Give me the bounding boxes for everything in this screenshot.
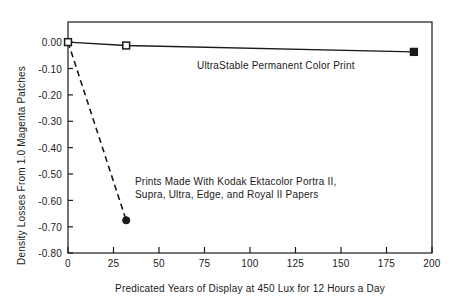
y-tick-label-3: -0.30 xyxy=(24,116,62,127)
y-tick-label-4: -0.40 xyxy=(24,142,62,153)
x-tick-label-5: 125 xyxy=(287,258,304,269)
x-tick-label-4: 100 xyxy=(241,258,258,269)
x-axis-title: Predicated Years of Display at 450 Lux f… xyxy=(115,283,385,294)
x-tick-label-6: 150 xyxy=(332,258,349,269)
annotation-kodak-label: Prints Made With Kodak Ektacolor Portra … xyxy=(135,176,336,201)
annotation-ultrastable-label: UltraStable Permanent Color Print xyxy=(197,60,355,73)
chart-figure: 0.00 -0.10 -0.20 -0.30 -0.40 -0.50 -0.60… xyxy=(0,0,460,304)
y-tick-label-2: -0.20 xyxy=(24,90,62,101)
data-point-marker xyxy=(123,42,130,49)
y-tick-label-5: -0.50 xyxy=(24,169,62,180)
series-ultrastable-line xyxy=(65,39,418,56)
y-tick-label-8: -0.80 xyxy=(24,248,62,259)
data-point-marker xyxy=(123,217,130,224)
y-axis-title: Density Losses From 1.0 Magenta Patches xyxy=(16,66,27,265)
annotation-kodak-line2: Supra, Ultra, Edge, and Royal II Papers xyxy=(135,189,318,200)
y-tick-label-7: -0.70 xyxy=(24,222,62,233)
y-tick-label-6: -0.60 xyxy=(24,195,62,206)
series-kodak-line xyxy=(68,42,130,224)
x-axis-ticks xyxy=(68,247,432,253)
x-tick-label-3: 75 xyxy=(199,258,211,269)
x-tick-label-8: 200 xyxy=(423,258,440,269)
data-point-marker xyxy=(65,39,72,46)
x-tick-label-0: 0 xyxy=(65,258,71,269)
x-tick-label-2: 50 xyxy=(153,258,165,269)
x-tick-label-7: 175 xyxy=(378,258,395,269)
annotation-kodak-line1: Prints Made With Kodak Ektacolor Portra … xyxy=(135,176,336,187)
x-tick-label-1: 25 xyxy=(108,258,120,269)
y-tick-label-1: -0.10 xyxy=(24,63,62,74)
data-point-marker xyxy=(411,49,418,56)
y-axis-ticks xyxy=(68,42,73,253)
y-tick-label-0: 0.00 xyxy=(24,37,62,48)
